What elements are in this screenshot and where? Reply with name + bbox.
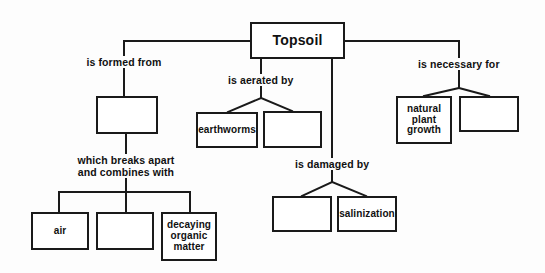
node-middle-blank-box[interactable] <box>96 212 154 250</box>
node-formed-from-box[interactable] <box>96 96 158 134</box>
node-label: salinization <box>339 209 395 220</box>
node-necessary-blank-box[interactable] <box>459 96 519 132</box>
node-label: decaying organic matter <box>167 220 211 252</box>
connector-damaged-right-diag <box>332 182 366 196</box>
edge-label-which-breaks-apart: which breaks apart and combines with <box>76 154 177 178</box>
concept-map-canvas: airdecaying organic matterearthwormssali… <box>0 0 545 273</box>
node-aerated-blank-box[interactable] <box>263 111 322 148</box>
node-salinization-box[interactable]: salinization <box>337 196 397 232</box>
edge-label-is-damaged-by: is damaged by <box>293 158 371 170</box>
connector-damaged-left-diag <box>302 182 332 196</box>
node-damaged-blank-box[interactable] <box>272 196 332 232</box>
edge-label-is-formed-from: is formed from <box>85 56 164 68</box>
connector-necessary-right-diag <box>459 88 489 96</box>
node-label: air <box>54 226 67 237</box>
node-natural-growth-box[interactable]: natural plant growth <box>396 96 452 144</box>
node-topsoil-root[interactable]: Topsoil <box>250 22 345 59</box>
node-label: natural plant growth <box>407 104 441 136</box>
node-air-box[interactable]: air <box>31 212 89 250</box>
node-decaying-box[interactable]: decaying organic matter <box>161 212 217 261</box>
connector-aerated-left-diag <box>228 98 261 112</box>
node-label: Topsoil <box>272 33 322 48</box>
node-label: earthworms <box>198 125 256 136</box>
edge-label-is-necessary-for: is necessary for <box>416 58 502 70</box>
node-earthworms-box[interactable]: earthworms <box>196 112 258 148</box>
connector-necessary-left-diag <box>424 88 459 96</box>
connector-aerated-right-diag <box>261 98 292 111</box>
edge-label-is-aerated-by: is aerated by <box>226 74 296 86</box>
